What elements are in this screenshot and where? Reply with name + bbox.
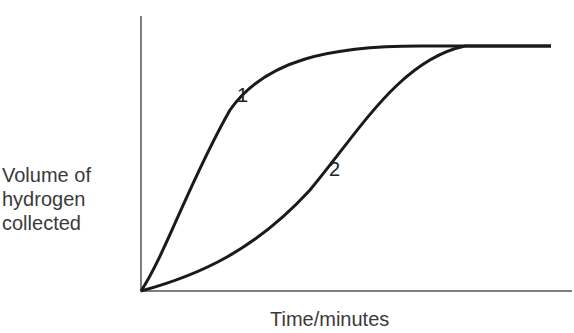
y-axis-label-line-3: collected bbox=[2, 211, 122, 235]
y-axis-label-line-2: hydrogen bbox=[2, 187, 122, 211]
y-axis-label: Volume of hydrogen collected bbox=[2, 163, 122, 235]
curve-1 bbox=[141, 46, 551, 291]
y-axis-label-line-1: Volume of bbox=[2, 163, 122, 187]
x-axis-label: Time/minutes bbox=[270, 308, 389, 331]
curve-2 bbox=[141, 46, 551, 291]
curve-1-label: 1 bbox=[237, 84, 248, 107]
curve-2-label: 2 bbox=[329, 158, 340, 181]
